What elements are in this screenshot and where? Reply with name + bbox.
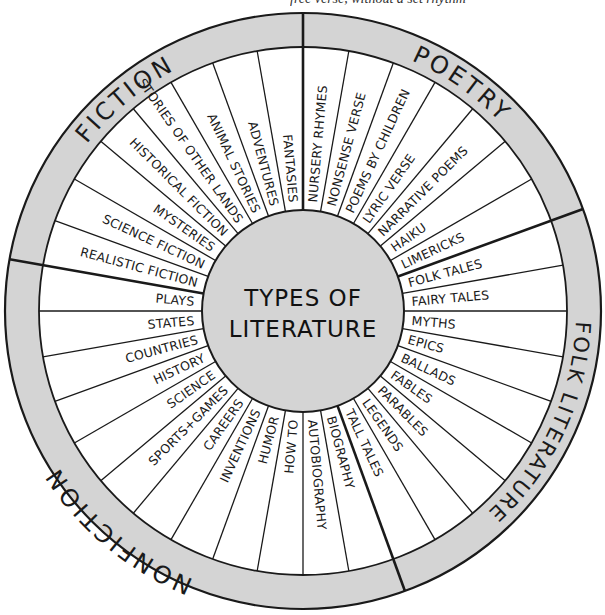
center-hub: TYPES OF LITERATURE [202,210,404,412]
center-title-line2: LITERATURE [229,316,378,342]
center-title-line1: TYPES OF [243,285,362,311]
types-of-literature-wheel: REALISTIC FICTIONSCIENCE FICTIONMYSTERIE… [0,0,605,615]
center-circle [202,210,404,412]
